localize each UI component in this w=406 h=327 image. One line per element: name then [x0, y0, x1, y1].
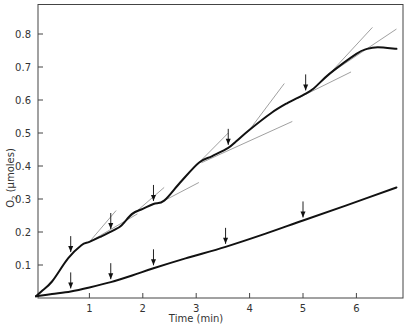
y-axis-label: O2 (µmoles): [5, 148, 19, 208]
tangent-line: [89, 211, 116, 242]
y-tick-label: 0.7: [15, 62, 31, 73]
arrowhead-icon: [223, 238, 228, 244]
oxygen-time-chart: 123456 0.10.20.30.40.50.60.70.8 Time (mi…: [0, 0, 406, 327]
x-tick-label: 4: [246, 303, 252, 314]
tangent-line: [199, 133, 228, 163]
y-tick-label: 0.1: [15, 260, 31, 271]
y-tick-label: 0.2: [15, 227, 31, 238]
y-tick-label: 0.5: [15, 128, 31, 139]
x-tick-label: 5: [300, 303, 306, 314]
arrowhead-icon: [301, 211, 306, 217]
y-tick-label: 0.6: [15, 95, 31, 106]
y-axis-ticks: 0.10.20.30.40.50.60.70.8: [15, 29, 43, 271]
x-axis-label: Time (min): [168, 313, 223, 324]
y-tick-label: 0.8: [15, 29, 31, 40]
arrowhead-icon: [68, 246, 73, 252]
x-tick-label: 6: [353, 303, 359, 314]
x-tick-label: 1: [86, 303, 92, 314]
x-tick-label: 2: [140, 303, 146, 314]
tangent-line: [164, 183, 199, 201]
upper-curve: [36, 47, 396, 296]
arrowhead-icon: [303, 84, 308, 90]
arrow-markers: [68, 74, 308, 288]
arrowhead-icon: [151, 259, 156, 265]
y-tick-label: 0.4: [15, 161, 31, 172]
x-axis-ticks: 123456: [86, 293, 359, 314]
tangent-line: [330, 27, 373, 73]
tangent-line: [250, 84, 285, 130]
data-curves: [36, 47, 396, 296]
tangent-line: [202, 121, 293, 162]
arrowhead-icon: [108, 273, 113, 279]
arrowhead-icon: [226, 139, 231, 145]
arrowhead-icon: [68, 282, 73, 288]
